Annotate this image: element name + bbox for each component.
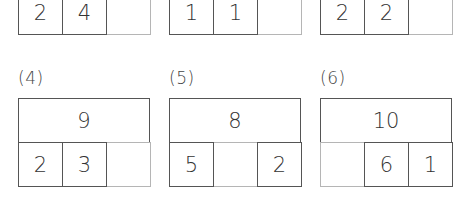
answer-cell[interactable] — [106, 0, 151, 35]
total-cell: 9 — [18, 98, 150, 143]
part-cell: 2 — [364, 0, 409, 35]
part-cell: 1 — [408, 142, 453, 187]
total-cell: 10 — [320, 98, 452, 143]
part-cell: 1 — [169, 0, 214, 35]
part-cell: 3 — [62, 142, 107, 187]
answer-cell[interactable] — [408, 0, 453, 35]
parts-row: 2 3 — [18, 142, 150, 187]
problem-label: (4) — [18, 68, 44, 88]
part-cell: 2 — [320, 0, 365, 35]
part-cell: 5 — [169, 142, 214, 187]
total-cell: 8 — [169, 98, 301, 143]
answer-cell[interactable] — [257, 0, 302, 35]
parts-row: 1 1 — [169, 0, 301, 35]
part-cell: 4 — [62, 0, 107, 35]
answer-cell[interactable] — [320, 142, 365, 187]
part-cell: 1 — [213, 0, 258, 35]
problem-label: (5) — [169, 68, 195, 88]
answer-cell[interactable] — [106, 142, 151, 187]
parts-row: 2 2 — [320, 0, 452, 35]
parts-row: 6 1 — [320, 142, 452, 187]
problem-label: (6) — [320, 68, 346, 88]
part-cell: 2 — [18, 142, 63, 187]
parts-row: 5 2 — [169, 142, 301, 187]
part-cell: 6 — [364, 142, 409, 187]
answer-cell[interactable] — [213, 142, 258, 187]
parts-row: 2 4 — [18, 0, 150, 35]
part-cell: 2 — [18, 0, 63, 35]
part-cell: 2 — [257, 142, 302, 187]
